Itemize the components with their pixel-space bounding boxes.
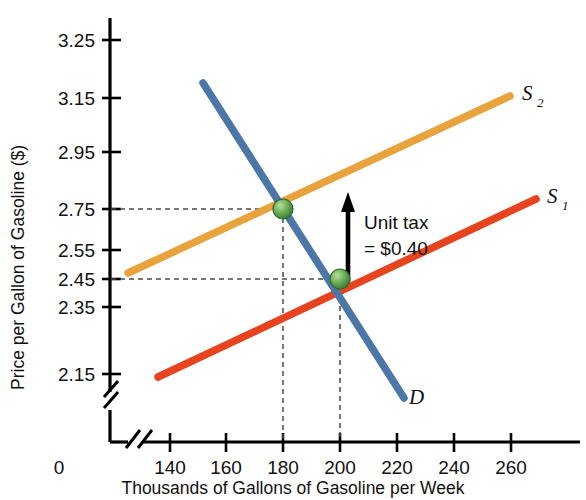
- y-tick-label: 2.15: [58, 364, 95, 385]
- y-axis-tick-labels: 3.25 3.15 2.95 2.75 2.55 2.45 2.35 2.15: [58, 30, 95, 385]
- curve-label-d: D: [408, 385, 424, 409]
- y-tick-label: 2.75: [58, 199, 95, 220]
- x-tick-label: 200: [324, 457, 356, 478]
- x-tick-label: 220: [381, 457, 413, 478]
- curve-label-s1: S 1: [547, 184, 569, 213]
- y-tick-label: 3.25: [58, 30, 95, 51]
- unit-tax-label-line2: = $0.40: [364, 238, 428, 259]
- y-tick-label: 2.35: [58, 297, 95, 318]
- x-tick-label: 160: [210, 457, 242, 478]
- curve-s2: [128, 96, 510, 273]
- x-tick-label: 140: [154, 457, 186, 478]
- unit-tax-label-line1: Unit tax: [364, 212, 429, 233]
- y-tick-label: 2.55: [58, 240, 95, 261]
- y-tick-label: 2.95: [58, 142, 95, 163]
- chart-canvas: Price per Gallon of Gasoline ($) Thousan…: [0, 0, 586, 500]
- x-tick-label: 180: [267, 457, 299, 478]
- curve-label-s2-sub: 2: [537, 95, 544, 110]
- curve-label-s2-text: S: [522, 81, 533, 105]
- equilibrium-marker-after-tax: [273, 199, 293, 219]
- x-axis-break-icon: [126, 430, 152, 448]
- x-tick-label: 260: [495, 457, 527, 478]
- curve-label-s1-sub: 1: [562, 198, 569, 213]
- x-origin-label: 0: [54, 457, 65, 478]
- y-tick-label: 3.15: [58, 88, 95, 109]
- y-tick-label: 2.45: [58, 269, 95, 290]
- supply-demand-tax-chart: Price per Gallon of Gasoline ($) Thousan…: [0, 0, 586, 500]
- unit-tax-arrow-icon: [341, 192, 355, 282]
- curve-label-s2: S 2: [522, 81, 544, 110]
- y-axis-title: Price per Gallon of Gasoline ($): [8, 145, 28, 390]
- x-axis-title: Thousands of Gallons of Gasoline per Wee…: [121, 478, 464, 498]
- x-axis-tick-labels: 0 140 160 180 200 220 240 260: [54, 457, 527, 478]
- equilibrium-marker-before-tax: [330, 269, 350, 289]
- x-tick-label: 240: [438, 457, 470, 478]
- curve-label-s1-text: S: [547, 184, 558, 208]
